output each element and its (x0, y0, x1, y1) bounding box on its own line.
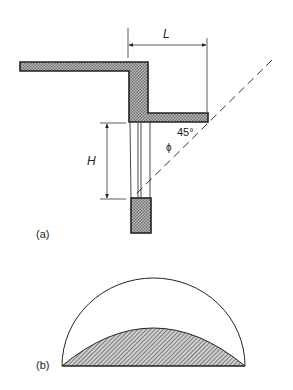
shaded-region (62, 328, 245, 366)
phi-symbol: ϕ (166, 142, 172, 153)
overhang-slab (20, 62, 208, 122)
part-a-label: (a) (36, 228, 49, 240)
wall-below-window (131, 198, 151, 233)
sun-angle-dashed-line (134, 60, 272, 196)
part-a-diagram: L H 45° ϕ (a) (20, 27, 272, 240)
dimension-H (100, 123, 126, 199)
dimension-L-label: L (163, 27, 170, 41)
part-b-label: (b) (36, 359, 49, 371)
figure-canvas: L H 45° ϕ (a) (b) (0, 0, 293, 390)
angle-label: 45° (177, 126, 194, 138)
dimension-H-label: H (87, 154, 96, 168)
part-b-diagram: (b) (36, 278, 245, 371)
window-frame (130, 122, 150, 198)
